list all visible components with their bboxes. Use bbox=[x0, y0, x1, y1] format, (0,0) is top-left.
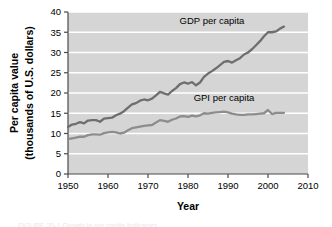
y-tick-label: 5 bbox=[56, 148, 61, 159]
x-tick-label: 1980 bbox=[177, 180, 198, 191]
y-axis-title-line2: (thousands of U.S. dollars) bbox=[23, 26, 35, 160]
y-axis-title-line1: Per capita value bbox=[8, 53, 20, 133]
y-tick-label: 15 bbox=[50, 108, 61, 119]
x-tick-label: 1990 bbox=[217, 180, 238, 191]
x-tick-label: 1960 bbox=[97, 180, 118, 191]
y-tick-label: 25 bbox=[50, 67, 61, 78]
x-axis-ticks bbox=[68, 174, 308, 178]
y-tick-label: 35 bbox=[50, 27, 61, 38]
x-tick-label: 2010 bbox=[297, 180, 318, 191]
series-label-gdp: GDP per capita bbox=[180, 15, 245, 26]
series-label-gpi: GPI per capita bbox=[194, 92, 255, 103]
x-axis-title: Year bbox=[177, 200, 199, 212]
y-tick-label: 40 bbox=[50, 6, 61, 17]
line-chart: 0510152025303540 19501960197019801990200… bbox=[0, 0, 332, 227]
x-tick-label: 1950 bbox=[57, 180, 78, 191]
y-tick-label: 10 bbox=[50, 128, 61, 139]
x-tick-label: 1970 bbox=[137, 180, 158, 191]
y-tick-label: 0 bbox=[56, 168, 61, 179]
x-tick-label: 2000 bbox=[257, 180, 278, 191]
figure-caption-partial: FIGURE 20-1 Growth in per capita indicat… bbox=[18, 221, 318, 227]
figure-container: 0510152025303540 19501960197019801990200… bbox=[0, 0, 332, 227]
y-tick-label: 30 bbox=[50, 47, 61, 58]
x-axis-tick-labels: 1950196019701980199020002010 bbox=[57, 180, 318, 191]
y-tick-label: 20 bbox=[50, 87, 61, 98]
y-axis-tick-labels: 0510152025303540 bbox=[50, 6, 61, 179]
